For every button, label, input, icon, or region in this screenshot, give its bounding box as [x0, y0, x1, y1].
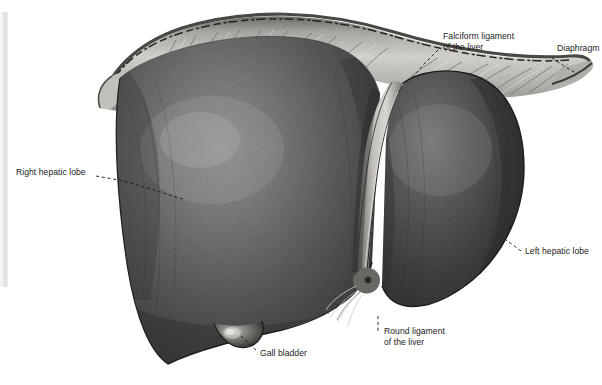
- diaphragm-label: Diaphragm: [557, 43, 599, 54]
- illustration-canvas: Falciform ligament of the liver Diaphrag…: [0, 0, 602, 385]
- right-hepatic-lobe-label: Right hepatic lobe: [16, 167, 86, 178]
- falciform-ligament-label: Falciform ligament of the liver: [443, 31, 514, 53]
- liver-illustration: [0, 0, 602, 385]
- round-ligament-label: Round ligament of the liver: [384, 326, 445, 348]
- left-hepatic-lobe-label: Left hepatic lobe: [525, 246, 589, 257]
- gall-bladder-label: Gall bladder: [260, 348, 307, 359]
- leader-left-hepatic-lobe: [506, 240, 521, 251]
